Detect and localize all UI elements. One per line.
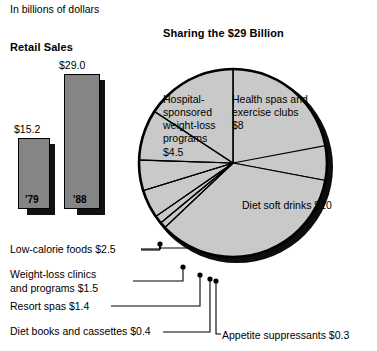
chart-figure: In billions of dollars Retail Sales $15.… — [0, 0, 377, 351]
pie-label-hospital-programs: Hospital- sponsored weight-loss programs… — [163, 93, 216, 159]
pie-callout-resort-spas: Resort spas $1.4 — [10, 300, 89, 314]
pie-callout-diet-books: Diet books and cassettes $0.4 — [10, 325, 151, 339]
pie-callout-low-calorie-foods: Low-calorie foods $2.5 — [10, 243, 116, 257]
pie-callout-appetite-suppressants: Appetite suppressants $0.3 — [222, 329, 349, 343]
pie-label-diet-soft-drinks: Diet soft drinks $10 — [242, 199, 332, 212]
pie-label-health-spas: Health spas and exercise clubs $8 — [232, 93, 308, 132]
pie-callout-leader-lowcal — [141, 245, 160, 249]
pie-callout-weight-loss-clinics: Weight-loss clinics and programs $1.5 — [10, 268, 98, 295]
pie-chart — [0, 0, 377, 351]
